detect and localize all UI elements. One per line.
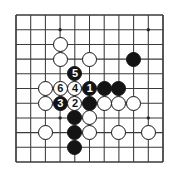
- move-number: 2: [72, 98, 78, 109]
- stone-black-move-1: 1: [82, 81, 97, 96]
- stone-white-move-6: 6: [53, 81, 68, 96]
- stone-white: [53, 52, 68, 67]
- stone-white: [97, 96, 112, 111]
- move-number: 6: [57, 83, 63, 94]
- move-number: 3: [57, 98, 63, 109]
- stone-black: [82, 96, 97, 111]
- stone-white: [141, 125, 156, 140]
- stone-black-move-3: 3: [53, 96, 68, 111]
- stone-black: [97, 81, 112, 96]
- go-board-diagram: 564132: [0, 0, 173, 175]
- move-number: 1: [87, 83, 93, 94]
- star-point: [58, 116, 61, 119]
- move-number: 5: [72, 68, 78, 79]
- star-point: [147, 116, 150, 119]
- stone-white: [82, 52, 97, 67]
- stone-black: [126, 52, 141, 67]
- stone-white: [126, 96, 141, 111]
- stone-white: [53, 37, 68, 52]
- stone-white: [38, 96, 53, 111]
- star-point: [147, 28, 150, 31]
- star-point: [58, 28, 61, 31]
- move-number: 4: [72, 83, 78, 94]
- stone-white: [38, 81, 53, 96]
